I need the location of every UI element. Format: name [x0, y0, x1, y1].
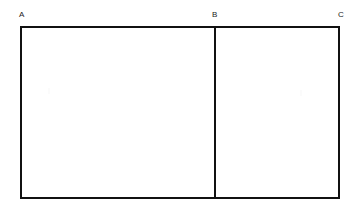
vertex-label-c: C: [338, 11, 344, 19]
vertex-label-b: B: [212, 11, 218, 19]
vertex-label-a: A: [19, 11, 25, 19]
outer-rectangle: [20, 26, 340, 199]
diagram-canvas: A B C: [0, 0, 354, 210]
vertical-divider-segment: [214, 26, 216, 199]
